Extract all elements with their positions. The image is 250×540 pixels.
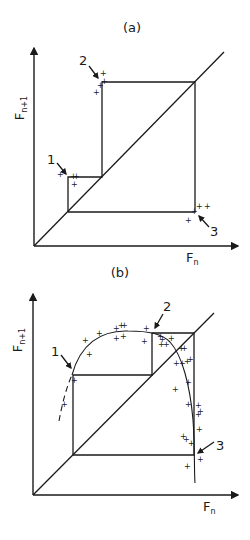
svg-text:+: +	[195, 410, 202, 419]
point-label-1: 1	[51, 344, 59, 359]
svg-text:+: +	[93, 88, 100, 97]
svg-text:+: +	[188, 439, 195, 448]
svg-text:+: +	[121, 321, 128, 330]
point-label-2: 2	[163, 299, 171, 314]
x-axis-label: Fn	[186, 250, 199, 267]
pointer-arrow-3	[198, 442, 214, 453]
svg-text:+: +	[204, 202, 211, 211]
svg-text:+: +	[101, 77, 108, 86]
point-label-1: 1	[47, 152, 55, 167]
panel-a: (a) Fn+1 Fn + + + + + + + + + + + +	[12, 20, 238, 267]
y-axis-label: Fn+1	[10, 328, 27, 352]
svg-text:+: +	[113, 334, 120, 343]
svg-text:+: +	[185, 400, 192, 409]
svg-text:+: +	[61, 400, 68, 409]
pointer-arrow-3	[199, 216, 209, 227]
svg-text:+: +	[172, 385, 179, 394]
svg-text:+: +	[184, 462, 191, 471]
panel-a-title: (a)	[123, 20, 141, 35]
scatter-points: + + + + + + + + + + + +	[57, 69, 211, 225]
svg-text:+: +	[96, 329, 103, 338]
point-label-3: 3	[210, 224, 218, 239]
svg-text:+: +	[191, 207, 198, 216]
svg-text:+: +	[185, 378, 192, 387]
svg-text:+: +	[71, 376, 78, 385]
svg-text:+: +	[196, 425, 203, 434]
svg-text:+: +	[187, 355, 194, 364]
svg-text:+: +	[185, 216, 192, 225]
y-axis-label: Fn+1	[12, 96, 29, 120]
x-axis-label: Fn	[203, 499, 216, 516]
svg-text:+: +	[57, 170, 64, 179]
pointer-arrow-1	[61, 355, 71, 368]
svg-text:Fn+1: Fn+1	[10, 328, 27, 352]
return-map-figure: (a) Fn+1 Fn + + + + + + + + + + + +	[0, 0, 250, 540]
svg-text:Fn: Fn	[186, 250, 199, 267]
svg-text:+: +	[143, 324, 150, 333]
svg-text:+: +	[141, 337, 148, 346]
pointer-arrow-2	[155, 314, 163, 328]
svg-text:+: +	[197, 455, 204, 464]
panel-b: (b) Fn+1 Fn + + + + + + + + + + +	[10, 265, 238, 516]
panel-b-title: (b)	[111, 265, 129, 280]
svg-text:Fn: Fn	[203, 499, 216, 516]
point-label-2: 2	[79, 53, 87, 68]
svg-text:+: +	[120, 332, 127, 341]
svg-text:Fn+1: Fn+1	[12, 96, 29, 120]
svg-text:+: +	[181, 344, 188, 353]
point-label-3: 3	[216, 438, 224, 453]
svg-text:+: +	[86, 350, 93, 359]
svg-text:+: +	[163, 340, 170, 349]
pointer-arrow-2	[89, 66, 98, 78]
svg-text:+: +	[82, 336, 89, 345]
svg-text:+: +	[71, 180, 78, 189]
